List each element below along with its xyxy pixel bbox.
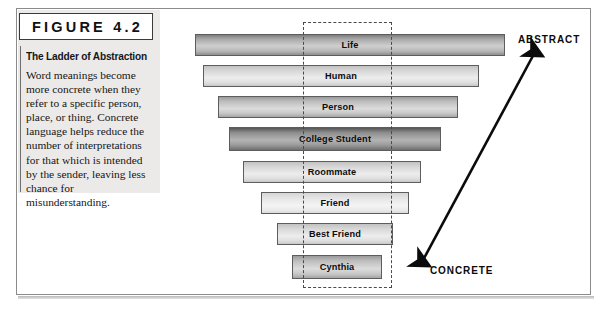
figure-container: FIGURE 4.2 The Ladder of Abstraction Wor…: [0, 0, 610, 315]
ladder-rung-label: College Student: [299, 134, 371, 144]
ladder-rung: Human: [203, 65, 479, 87]
ladder-rung: Person: [218, 96, 458, 118]
ladder-rung-label: Friend: [321, 198, 350, 208]
ladder-rung: College Student: [229, 127, 441, 151]
ladder-rung: Roommate: [243, 161, 421, 183]
ladder-rung-label: Roommate: [308, 167, 357, 177]
ladder-rung-label: Life: [342, 40, 359, 50]
ladder-rung: Friend: [261, 192, 409, 214]
ladder-rung-label: Best Friend: [309, 229, 361, 239]
ladder-rung: Best Friend: [277, 223, 393, 245]
ladder-rung-label: Person: [322, 102, 354, 112]
ladder-rung: Life: [195, 34, 505, 56]
ladder-rung-label: Cynthia: [320, 262, 355, 272]
ladder-rung-label: Human: [325, 71, 357, 81]
ladder-rung: Cynthia: [292, 255, 382, 279]
